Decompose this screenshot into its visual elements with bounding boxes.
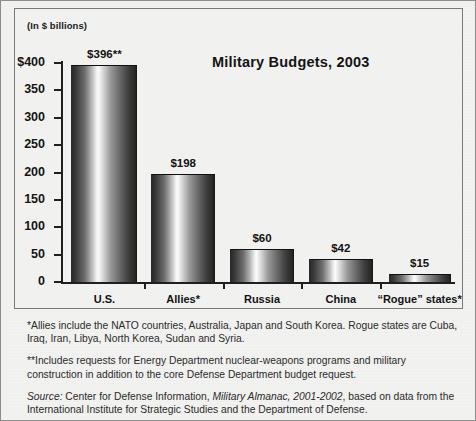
category-label: U.S. — [94, 293, 115, 305]
y-axis-tick: 100 — [54, 226, 61, 228]
x-axis-tick — [144, 282, 146, 289]
y-axis-tick-label: 100 — [24, 219, 45, 233]
y-axis-tick: 350 — [54, 89, 61, 91]
bar — [230, 249, 294, 282]
source-note: Source: Center for Defense Information, … — [27, 390, 459, 416]
category-label: “Rogue” states* — [377, 293, 461, 305]
bar-value-label: $396** — [87, 48, 122, 60]
y-axis-line — [61, 61, 63, 284]
y-axis-tick: $400 — [54, 62, 61, 64]
bar — [389, 274, 451, 282]
source-publisher: Center for Defense Information, — [63, 391, 213, 402]
category-label: Russia — [244, 293, 280, 305]
y-axis-tick-label: 250 — [24, 137, 45, 151]
y-axis-tick-label: 200 — [24, 165, 45, 179]
y-axis-tick-label: $400 — [17, 55, 45, 69]
y-axis-tick-label: 350 — [24, 82, 45, 96]
x-axis-tick — [301, 282, 303, 289]
y-axis-tick: 50 — [54, 254, 61, 256]
y-axis-tick-label: 300 — [24, 110, 45, 124]
y-axis-tick: 200 — [54, 172, 61, 174]
bar — [71, 65, 137, 282]
footnotes: *Allies include the NATO countries, Aust… — [27, 319, 459, 416]
chart-frame: (In $ billions) Military Budgets, 2003 0… — [14, 8, 463, 309]
axis-units-label: (In $ billions) — [27, 20, 87, 31]
footnote-includes: **Includes requests for Energy Departmen… — [27, 354, 459, 380]
category-label: China — [326, 293, 357, 305]
y-axis-tick: 150 — [54, 199, 61, 201]
y-axis-tick-label: 0 — [38, 274, 45, 288]
y-axis-tick: 0 — [54, 281, 61, 283]
source-title: Military Almanac, 2001-2002 — [212, 391, 342, 402]
bar — [309, 259, 373, 282]
footnote-allies: *Allies include the NATO countries, Aust… — [27, 319, 459, 345]
x-axis-tick — [380, 282, 382, 289]
bar-value-label: $42 — [331, 242, 350, 254]
x-axis-line — [61, 282, 455, 284]
chart-page: (In $ billions) Military Budgets, 2003 0… — [0, 0, 476, 421]
bar-value-label: $15 — [410, 257, 429, 269]
y-axis-tick-label: 50 — [31, 247, 45, 261]
bar — [151, 174, 215, 282]
category-label: Allies* — [166, 293, 200, 305]
y-axis-tick-label: 150 — [24, 192, 45, 206]
y-axis-tick: 300 — [54, 117, 61, 119]
source-label: Source: — [27, 391, 63, 402]
x-axis-tick — [223, 282, 225, 289]
y-axis-tick: 250 — [54, 144, 61, 146]
bar-value-label: $60 — [252, 232, 271, 244]
plot-area: 050100150200250300350$400 $396**$198$60$… — [61, 61, 455, 284]
bar-value-label: $198 — [170, 157, 196, 169]
